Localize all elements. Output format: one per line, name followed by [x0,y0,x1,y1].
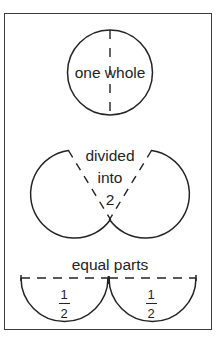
fraction-right-half: 1 2 [138,288,164,320]
label-divided: divided [0,148,220,164]
fraction-left-denominator: 2 [51,306,77,320]
label-number-of-parts: 2 [0,192,220,208]
label-one-whole: one whole [0,65,220,81]
fraction-left-numerator: 1 [51,288,77,302]
label-equal-parts: equal parts [0,257,220,273]
fraction-right-denominator: 2 [138,306,164,320]
semicircle-center-split [108,276,109,284]
fraction-right-bar [146,303,157,304]
stage-equal-parts-group [21,275,196,322]
label-into: into [0,170,220,186]
fraction-right-numerator: 1 [138,288,164,302]
illustration-page: one whole divided into 2 equal parts 1 2… [0,0,220,346]
fraction-left-bar [59,303,70,304]
fraction-left-half: 1 2 [51,288,77,320]
